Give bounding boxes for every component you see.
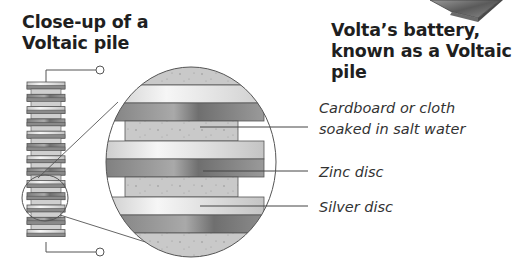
pile-spacer [31, 89, 61, 94]
label-silver: Silver disc [319, 197, 393, 218]
title-line: Voltaic pile [22, 33, 148, 54]
pile-spacer [31, 200, 61, 205]
pile-spacer [31, 151, 61, 156]
title-line: Close-up of a [22, 12, 148, 33]
label-zinc: Zinc disc [319, 162, 384, 183]
title-line: Volta’s battery, [331, 20, 530, 41]
pile-spacer [31, 212, 61, 217]
small-voltaic-pile [27, 66, 104, 256]
magnified-pile [100, 55, 290, 265]
pile-spacer [31, 163, 61, 168]
terminal-circle-icon [96, 248, 104, 256]
title-volta-battery: Volta’s battery, known as a Voltaic pile [331, 20, 530, 83]
label-line: soaked in salt water [319, 119, 465, 140]
pile-spacer [31, 224, 61, 229]
battery-photo-icon [430, 0, 503, 22]
pile-spacer [31, 114, 61, 119]
terminal-circle-icon [96, 66, 104, 74]
title-line: known as a Voltaic pile [331, 41, 530, 83]
pile-spacer [31, 187, 61, 192]
pile-spacer [31, 126, 61, 131]
pile-spacer [31, 138, 61, 143]
zinc-disc [100, 159, 264, 177]
title-close-up: Close-up of a Voltaic pile [22, 12, 148, 54]
label-line: Cardboard or cloth [319, 98, 465, 119]
pile-spacer [31, 101, 61, 106]
cardboard-disc [125, 121, 238, 141]
label-cardboard: Cardboard or cloth soaked in salt water [319, 98, 465, 140]
